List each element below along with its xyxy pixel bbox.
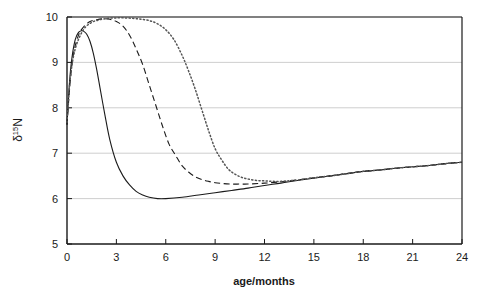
x-tick-label-24: 24: [456, 251, 468, 263]
y-axis-title-element: N: [11, 118, 25, 127]
x-tick-label-18: 18: [357, 251, 369, 263]
delta-15-n-vs-age-line-chart: 03691215182124 5678910 age/months δ15N: [0, 0, 483, 295]
x-tick-label-3: 3: [113, 251, 119, 263]
y-tick-label-8: 8: [52, 102, 58, 114]
y-tick-label-5: 5: [52, 238, 58, 250]
y-axis-title-superscript: 15: [11, 127, 20, 135]
chart-figure: 03691215182124 5678910 age/months δ15N: [0, 0, 483, 295]
x-tick-label-9: 9: [212, 251, 218, 263]
y-tick-label-7: 7: [52, 147, 58, 159]
y-tick-label-6: 6: [52, 193, 58, 205]
x-tick-label-15: 15: [308, 251, 320, 263]
x-tick-label-21: 21: [407, 251, 419, 263]
x-tick-label-0: 0: [64, 251, 70, 263]
x-axis-title: age/months: [233, 275, 295, 287]
y-tick-label-10: 10: [46, 11, 58, 23]
x-tick-label-6: 6: [163, 251, 169, 263]
x-tick-label-12: 12: [258, 251, 270, 263]
y-tick-label-9: 9: [52, 56, 58, 68]
